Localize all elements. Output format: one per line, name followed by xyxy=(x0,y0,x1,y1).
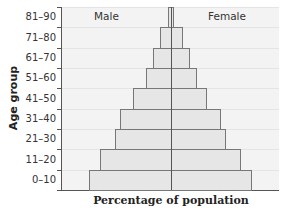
bar-male xyxy=(146,68,172,89)
bar-male xyxy=(115,129,172,150)
bar-female xyxy=(171,27,183,48)
y-tick xyxy=(57,129,62,130)
bar-male xyxy=(89,170,172,191)
bar-female xyxy=(171,88,207,109)
y-tick-label: 0–10 xyxy=(32,174,56,186)
y-tick-label: 51–60 xyxy=(26,72,56,84)
bar-male xyxy=(100,149,172,170)
y-axis-line xyxy=(61,7,62,191)
y-tick xyxy=(57,48,62,49)
bar-male xyxy=(153,48,172,69)
bar-male xyxy=(120,109,172,130)
y-axis-title: Age group xyxy=(7,66,20,130)
y-tick xyxy=(57,68,62,69)
y-tick-label: 21–30 xyxy=(26,133,56,145)
y-tick xyxy=(57,149,62,150)
female-label: Female xyxy=(208,10,246,22)
y-tick-label: 71–80 xyxy=(26,32,56,44)
bar-female xyxy=(171,149,241,170)
center-axis-line xyxy=(171,7,172,190)
y-tick xyxy=(57,190,62,191)
y-tick xyxy=(57,109,62,110)
y-tick xyxy=(57,27,62,28)
y-tick-label: 61–70 xyxy=(26,52,56,64)
bar-female xyxy=(171,48,190,69)
male-label: Male xyxy=(94,10,119,22)
y-tick xyxy=(57,7,62,8)
y-tick xyxy=(57,88,62,89)
y-tick xyxy=(57,170,62,171)
x-axis-title: Percentage of population xyxy=(93,194,249,207)
bar-female xyxy=(171,68,197,89)
y-tick-label: 11–20 xyxy=(26,154,56,166)
bar-female xyxy=(171,129,226,150)
y-tick-label: 41–50 xyxy=(26,93,56,105)
bar-female xyxy=(171,109,221,130)
bar-female xyxy=(171,170,252,191)
bar-male xyxy=(133,88,172,109)
y-tick-label: 31–40 xyxy=(26,113,56,125)
population-pyramid-chart: 81–9071–8061–7051–6041–5031–4021–3011–20… xyxy=(0,0,288,208)
y-tick-label: 81–90 xyxy=(26,11,56,23)
